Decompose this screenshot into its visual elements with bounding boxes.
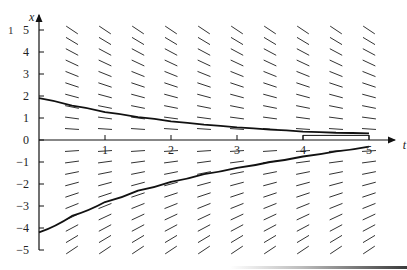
slope-segment [99,37,111,44]
slope-segment [65,83,78,87]
slope-segment [66,203,79,208]
slope-segment [98,161,112,163]
slope-segment [198,49,210,56]
slope-segment [165,49,177,56]
slope-segment [98,172,112,175]
x-tick-label: 1 [102,143,108,157]
slope-segment [264,60,277,66]
slope-segment [98,94,112,98]
slope-segment [164,94,178,98]
slope-segment [132,26,144,34]
slope-segment [197,151,211,152]
bracket-annotation [303,135,369,140]
slope-segment [131,182,145,186]
slope-segment [231,235,243,242]
slope-segment [297,60,310,66]
x-tick-label: 5 [366,143,372,157]
slope-segment [66,26,78,34]
slope-segment [362,161,376,163]
slope-segment [164,106,178,109]
slope-segment [263,172,277,175]
slope-segment [65,151,79,152]
slope-segment [99,214,112,220]
slope-segment [296,193,309,197]
slope-segment [131,83,144,87]
slope-segment [165,37,177,44]
slope-segment [98,182,112,186]
y-tick-label: 1 [23,111,29,125]
slope-segment [231,225,243,232]
slope-segment [98,106,112,109]
slope-segment [329,182,343,186]
slope-segment [197,129,211,130]
slope-segment [66,49,78,56]
slope-segment [263,94,277,98]
slope-segment [132,49,144,56]
slope-segment [329,83,342,87]
slope-segment [329,106,343,109]
slope-segment [198,60,211,66]
slope-segment [297,214,310,220]
slope-segment [131,151,145,152]
slope-segment [131,172,145,175]
direction-field-chart: −5−4−3−2−101234512345 t x [0,0,407,270]
slope-segment [165,214,178,220]
slope-segment [197,182,211,186]
x-axis-label: x [28,10,35,24]
slope-segment [65,161,79,163]
slope-segment [363,246,375,254]
slope-segment [330,246,342,254]
slope-segment [363,71,376,76]
slope-segment [66,235,78,242]
x-tick-label: 2 [168,143,174,157]
y-tick-label: −4 [16,221,29,235]
slope-segment [197,94,211,98]
slope-segment [65,129,79,130]
slope-segment [362,117,376,119]
slope-segment [99,235,111,242]
slope-segment [198,246,210,254]
slope-segment [65,172,79,175]
slope-segment [165,26,177,34]
slope-segment [264,37,276,44]
slope-segment [165,203,178,208]
slope-segment [296,117,310,119]
slope-segment [230,182,244,186]
slope-segment [132,37,144,44]
slope-segment [65,94,79,98]
slope-segment [363,49,375,56]
slope-segment [362,129,376,130]
y-tick-label: 2 [23,89,29,103]
slope-segment [198,235,210,242]
slope-segment [297,235,309,242]
slope-segment [198,214,211,220]
slope-segment [197,193,210,197]
slope-segment [264,246,276,254]
y-tick-label: 0 [23,133,29,147]
slope-segment [264,225,276,232]
slope-segment [230,83,243,87]
slope-segment [330,203,343,208]
slope-segment [297,225,309,232]
slope-segment [131,106,145,109]
slope-segment [329,172,343,175]
slope-segment [231,71,244,76]
slope-segment [231,214,244,220]
slope-segment [66,246,78,254]
slope-segment [231,26,243,34]
slope-segment [363,26,375,34]
slope-segment [296,106,310,109]
slope-segment [99,60,112,66]
slope-segment [264,214,277,220]
slope-segment [297,49,309,56]
slope-segment [165,235,177,242]
slope-segment [263,117,277,119]
y-tick-label: 5 [23,23,29,37]
slope-segment [98,83,111,87]
slope-segment [165,246,177,254]
slope-segment [231,246,243,254]
slope-segment [230,106,244,109]
slope-segment [198,225,210,232]
slope-segment [263,106,277,109]
slope-segment [230,161,244,163]
